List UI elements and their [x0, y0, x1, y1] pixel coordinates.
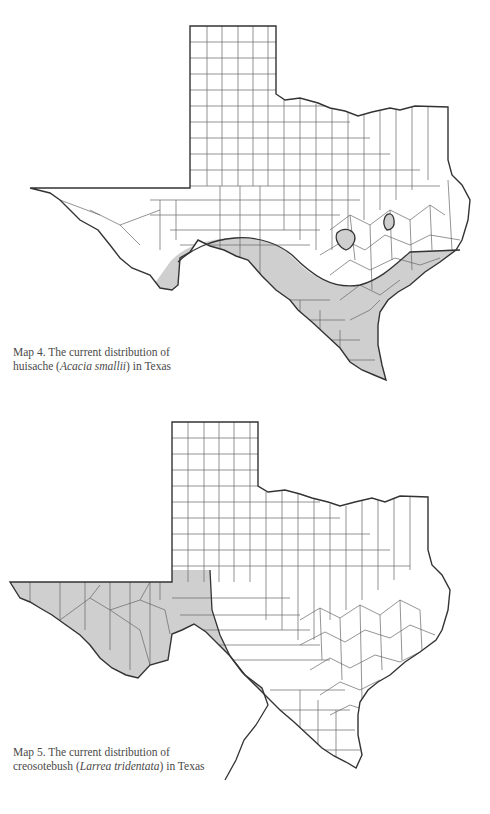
map-4-caption-line2: huisache (Acacia smallii) in Texas	[13, 359, 171, 373]
map-4-caption: Map 4. The current distribution of huisa…	[13, 345, 171, 373]
species-name: Acacia smallii	[60, 360, 126, 372]
map-5-caption: Map 5. The current distribution of creos…	[13, 745, 205, 773]
species-name: Larrea tridentata	[80, 760, 160, 772]
map-4-caption-line1: Map 4. The current distribution of	[13, 345, 171, 359]
map-5-caption-line2: creosotebush (Larrea tridentata) in Texa…	[13, 759, 205, 773]
map-5-caption-line1: Map 5. The current distribution of	[13, 745, 205, 759]
